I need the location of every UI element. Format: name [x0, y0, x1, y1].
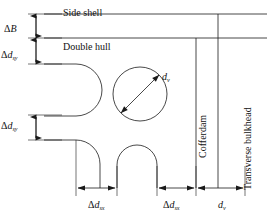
upper-notch-round-end: [76, 64, 102, 116]
label-delta-dsx-left: Δdsx: [88, 200, 105, 210]
label-dv-bottom: dv: [218, 200, 226, 210]
vessel-diameter-arrow: [121, 75, 159, 113]
label-double-hull: Double hull: [63, 42, 111, 52]
label-delta-dsx-right: Δdsx: [163, 200, 180, 210]
subscript-sy: sy: [12, 125, 17, 132]
subscript-v: v: [223, 204, 226, 211]
subscript-sx: sx: [174, 204, 179, 211]
label-transverse-bulkhead: Transverse bulkhead: [242, 107, 253, 190]
subscript-sy: sy: [12, 54, 17, 61]
lower-notch-quarter-arc: [76, 140, 100, 164]
label-cofferdam: Cofferdam: [197, 115, 208, 158]
label-delta-B: ΔB: [4, 24, 17, 34]
center-arch-dome: [117, 145, 157, 165]
label-side-shell: Side shell: [63, 8, 102, 18]
subscript-v: v: [167, 76, 170, 83]
base-glyph-B: B: [10, 23, 16, 34]
diagram-vector-canvas: [0, 0, 267, 223]
subscript-sx: sx: [99, 204, 104, 211]
label-circle-diameter-dv: dv: [162, 72, 170, 82]
label-delta-dsy-upper: Δdsy: [1, 50, 18, 60]
ship-hull-cross-section-diagram: Side shell Double hull ΔB Δdsy Δdsy dv Δ…: [0, 0, 267, 223]
label-delta-dsy-lower: Δdsy: [1, 121, 18, 131]
